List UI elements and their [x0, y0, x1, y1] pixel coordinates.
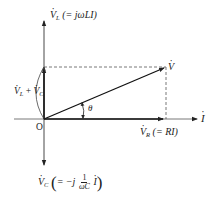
- vc-fraction: 1ωC: [79, 174, 90, 192]
- phasor-diagram: VL (= jωLI) V VL + VC θ O I VR (= RI) VC…: [0, 0, 215, 203]
- vc-label: VC (= −j 1ωC I): [38, 174, 102, 192]
- vl-label: VL (= jωLI): [50, 10, 97, 22]
- v-phasor: [44, 68, 164, 119]
- vl-expression: (= jωLI): [62, 9, 97, 20]
- current-axis-label: I: [201, 113, 205, 124]
- theta-label: θ: [88, 104, 92, 113]
- vl-plus-vc-label: VL + VC: [14, 87, 44, 98]
- origin-label: O: [36, 123, 43, 133]
- v-label: V: [168, 62, 174, 72]
- vr-expression: (= RI): [153, 126, 178, 137]
- vc-prefix: = −j: [57, 176, 76, 187]
- vr-label: VR (= RI): [140, 127, 178, 139]
